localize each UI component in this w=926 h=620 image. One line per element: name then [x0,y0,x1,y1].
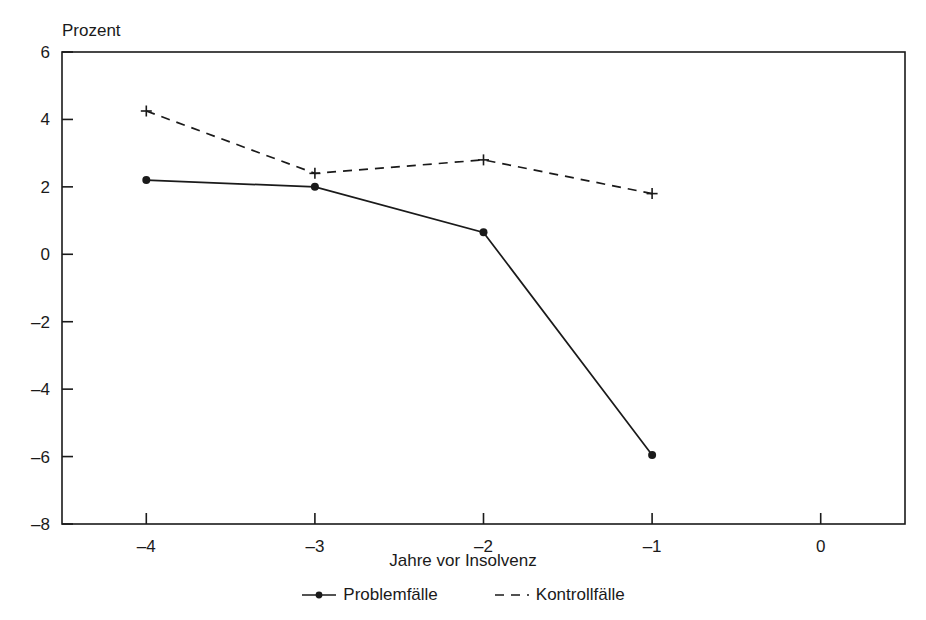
legend-item-problemfaelle: Problemfälle [301,586,438,603]
y-tick-label: –2 [8,313,50,330]
chart-figure: Prozent 6420–2–4–6–8 –4–3–2–10 Jahre vor… [0,0,926,620]
y-tick-label: 6 [8,44,50,61]
legend-swatch-dashed-icon [494,588,530,602]
x-axis-title: Jahre vor Insolvenz [0,552,926,569]
y-tick-label: 2 [8,178,50,195]
plot-area [0,0,926,620]
y-tick-label: –4 [8,381,50,398]
y-tick-label: –6 [8,448,50,465]
legend-swatch-solid-dot-icon [301,588,337,602]
axis-ticks [62,52,821,524]
axes-frame [62,52,905,524]
series-kontrollfälle [141,106,658,200]
legend-label-problemfaelle: Problemfälle [343,586,438,603]
series-problemfälle [142,176,656,459]
legend-item-kontrollfaelle: Kontrollfälle [494,586,625,603]
chart-legend: Problemfälle Kontrollfälle [0,586,926,603]
data-series-group [141,106,658,459]
y-tick-label: 0 [8,246,50,263]
y-tick-label: –8 [8,516,50,533]
y-tick-label: 4 [8,111,50,128]
legend-label-kontrollfaelle: Kontrollfälle [536,586,625,603]
